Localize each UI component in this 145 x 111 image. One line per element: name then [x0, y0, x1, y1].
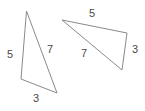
left-triangle-label-3: 3: [33, 93, 39, 104]
triangles-canvas: [0, 0, 145, 111]
geometry-figure: 5 7 3 5 3 7: [0, 0, 145, 111]
right-triangle-label-5: 5: [89, 8, 95, 19]
left-triangle-label-5: 5: [7, 49, 13, 60]
right-triangle-outline: [62, 20, 127, 70]
left-triangle-label-7: 7: [47, 44, 53, 55]
right-triangle-label-7: 7: [81, 48, 87, 59]
right-triangle-label-3: 3: [132, 44, 138, 55]
